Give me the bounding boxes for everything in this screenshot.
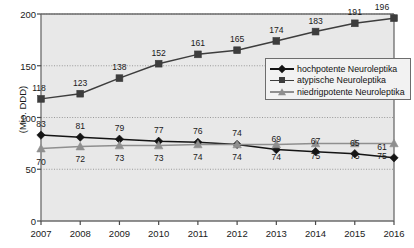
data-label: 75 bbox=[311, 151, 321, 161]
data-label: 74 bbox=[272, 152, 282, 162]
legend-label: hochpotente Neuroleptika bbox=[297, 64, 397, 74]
legend-item-1[interactable]: hochpotente Neuroleptika bbox=[270, 63, 404, 75]
x-tick-label: 2016 bbox=[383, 228, 404, 239]
data-label: 81 bbox=[75, 121, 85, 131]
data-label: 69 bbox=[272, 134, 282, 144]
legend-label: niedrigpotente Neuroleptika bbox=[297, 87, 405, 97]
data-label: 152 bbox=[151, 48, 165, 58]
x-tick-label: 2015 bbox=[344, 228, 365, 239]
data-label: 74 bbox=[232, 128, 242, 138]
x-tick-label: 2008 bbox=[70, 228, 91, 239]
x-tick-label: 2013 bbox=[266, 228, 287, 239]
data-label: 161 bbox=[191, 38, 205, 48]
data-label: 196 bbox=[375, 2, 389, 12]
data-label: 183 bbox=[308, 16, 322, 26]
legend-item-2[interactable]: atypische Neuroleptika bbox=[270, 75, 404, 87]
x-tick-label: 2010 bbox=[148, 228, 169, 239]
data-label: 138 bbox=[112, 62, 126, 72]
line-chart: (Mio. DDD) 050100150200 2007200820092010… bbox=[0, 0, 414, 248]
data-label: 74 bbox=[193, 152, 203, 162]
data-label: 77 bbox=[154, 125, 164, 135]
x-tick-label: 2007 bbox=[30, 228, 51, 239]
data-label: 67 bbox=[311, 136, 321, 146]
data-label: 61 bbox=[377, 142, 387, 152]
data-label: 72 bbox=[75, 154, 85, 164]
data-label: 174 bbox=[269, 25, 283, 35]
data-label: 73 bbox=[115, 153, 125, 163]
triangle-marker-icon bbox=[270, 86, 294, 97]
x-tick-label: 2011 bbox=[188, 228, 208, 239]
x-tick-label: 2014 bbox=[305, 228, 326, 239]
data-label: 118 bbox=[32, 83, 46, 93]
data-label: 79 bbox=[115, 123, 125, 133]
diamond-marker-icon bbox=[270, 63, 294, 74]
data-label: 123 bbox=[73, 78, 87, 88]
data-label: 65 bbox=[350, 138, 360, 148]
data-label: 83 bbox=[36, 119, 46, 129]
square-marker-icon bbox=[270, 75, 294, 86]
legend-label: atypische Neuroleptika bbox=[297, 75, 386, 85]
legend-item-3[interactable]: niedrigpotente Neuroleptika bbox=[270, 86, 404, 98]
plot-area bbox=[0, 0, 414, 248]
data-label: 70 bbox=[36, 157, 46, 167]
x-tick-label: 2012 bbox=[227, 228, 248, 239]
data-label: 191 bbox=[348, 7, 362, 17]
data-label: 74 bbox=[232, 152, 242, 162]
data-label: 165 bbox=[230, 34, 244, 44]
data-label: 75 bbox=[377, 151, 387, 161]
data-label: 76 bbox=[193, 126, 203, 136]
chart-legend: hochpotente Neuroleptikaatypische Neurol… bbox=[265, 58, 411, 100]
data-label: 75 bbox=[350, 151, 360, 161]
x-tick-label: 2009 bbox=[109, 228, 130, 239]
data-label: 73 bbox=[154, 153, 164, 163]
